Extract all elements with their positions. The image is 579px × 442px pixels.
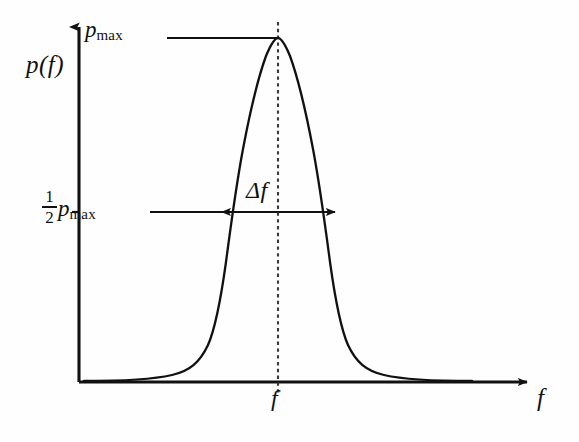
x-axis-label: f <box>537 385 544 410</box>
fwhm-label: Δf <box>246 178 268 202</box>
peak-value-symbol: p <box>85 17 97 42</box>
half-peak-subscript: max <box>70 206 96 222</box>
one-half-fraction: 1 2 <box>42 188 57 226</box>
half-peak-symbol: p <box>58 196 70 221</box>
fraction-numerator: 1 <box>43 188 56 206</box>
fraction-denominator: 2 <box>43 208 56 226</box>
y-axis-label: p(f) <box>26 52 64 77</box>
spectral-width-diagram: p(f) pmax 1 2 pmax Δf f f <box>0 0 579 442</box>
half-peak-value-label: 1 2 pmax <box>42 189 96 227</box>
half-peak-symbol-group: pmax <box>58 197 96 220</box>
peak-value-label: pmax <box>85 18 123 41</box>
peak-value-subscript: max <box>97 27 123 43</box>
center-frequency-label: f <box>271 386 278 410</box>
